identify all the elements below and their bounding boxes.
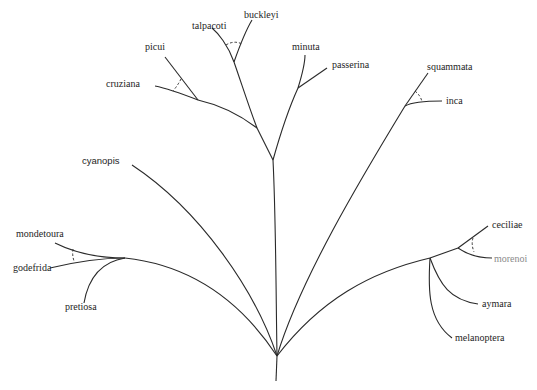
- branch-talpacoti-clade: [234, 62, 257, 128]
- branch-pretiosa: [84, 258, 125, 303]
- branch-godefrida: [50, 258, 125, 268]
- phylogenetic-tree-diagram: buckleyi talpacoti picui minuta passerin…: [0, 0, 537, 390]
- branch-inca: [405, 101, 442, 106]
- branch-morenoi: [458, 248, 492, 258]
- label-mondetoura: mondetoura: [16, 228, 64, 239]
- branch-minuta-clade: [273, 88, 298, 160]
- label-passerina: passerina: [332, 59, 370, 70]
- label-picui: picui: [145, 41, 165, 52]
- branch-ceciliae-clade: [277, 258, 430, 356]
- branch-buckleyi: [234, 20, 252, 62]
- label-morenoi: morenoi: [494, 253, 528, 264]
- branch-left-upper-clade: [257, 128, 273, 160]
- branch-squammata: [405, 73, 428, 106]
- branch-mondetoura: [55, 243, 125, 258]
- branch-aymara: [430, 258, 478, 304]
- branch-minuta: [298, 55, 305, 88]
- label-melanoptera: melanoptera: [455, 332, 505, 343]
- label-cyanopis: cyanopis: [82, 155, 120, 166]
- label-talpacoti: talpacoti: [192, 20, 227, 31]
- angle-arc-picui: [173, 79, 181, 91]
- branch-talpacoti: [212, 28, 234, 62]
- label-pretiosa: pretiosa: [65, 301, 97, 312]
- branch-ceciliae: [458, 226, 488, 248]
- tree-svg: buckleyi talpacoti picui minuta passerin…: [0, 0, 537, 390]
- label-godefrida: godefrida: [13, 262, 52, 273]
- angle-arc-squammata: [415, 91, 422, 102]
- branch-melanoptera: [429, 258, 452, 338]
- branch-cruziana: [155, 86, 198, 100]
- angle-arc-talpacoti: [226, 42, 242, 45]
- angle-arc-ceciliae: [472, 238, 474, 252]
- label-squammata: squammata: [427, 61, 473, 72]
- label-cruziana: cruziana: [106, 78, 140, 89]
- branch-squammata-clade: [277, 106, 405, 356]
- label-aymara: aymara: [482, 298, 512, 309]
- branch-godefrida-clade: [125, 258, 277, 356]
- label-minuta: minuta: [292, 41, 320, 52]
- root-stem: [276, 356, 277, 381]
- label-buckleyi: buckleyi: [244, 9, 279, 20]
- trunk-branch: [273, 160, 277, 356]
- branch-ceciliae-morenoi: [430, 248, 458, 258]
- label-inca: inca: [446, 95, 463, 106]
- label-ceciliae: ceciliae: [492, 219, 523, 230]
